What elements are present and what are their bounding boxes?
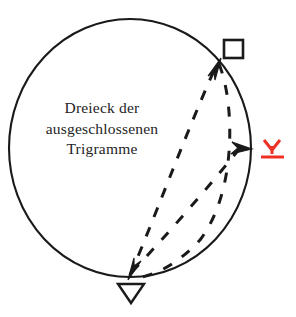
caption-line-1: Dreieck der xyxy=(18,98,186,119)
dashed-edge-square-to-bottom xyxy=(137,64,230,278)
arrowhead-to-red xyxy=(231,142,252,154)
red-y-marker-icon xyxy=(261,140,284,157)
square-marker-icon xyxy=(224,40,243,58)
diagram-caption: Dreieck der ausgeschlossenen Trigramme xyxy=(18,98,186,160)
caption-line-3: Trigramme xyxy=(18,139,186,160)
caption-line-2: ausgeschlossenen xyxy=(18,119,186,140)
excluded-trigrams-diagram: Dreieck der ausgeschlossenen Trigramme xyxy=(0,0,296,317)
triangle-down-marker-icon xyxy=(118,284,144,303)
